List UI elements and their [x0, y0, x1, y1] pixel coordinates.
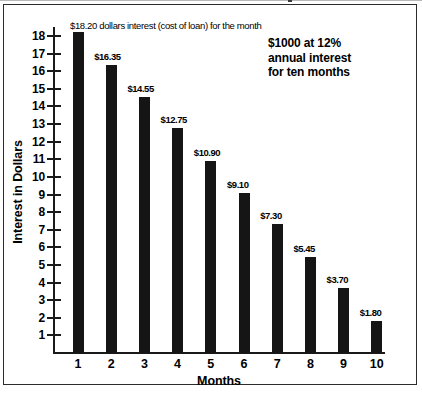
side-note-line: annual interest [268, 51, 351, 66]
x-axis-line [53, 352, 385, 354]
bar-value-label: $12.75 [161, 115, 187, 125]
y-axis-tick-label: 10 [25, 171, 45, 183]
y-axis-tick-label: 13 [25, 118, 45, 130]
x-axis-tick-label: 8 [295, 357, 325, 371]
y-axis-tick-label: 7 [25, 224, 45, 236]
y-axis-tick [47, 282, 61, 284]
bar [239, 193, 250, 353]
bar [371, 321, 382, 353]
y-axis-tick [47, 229, 61, 231]
bar-value-label: $5.45 [293, 244, 315, 254]
y-axis-tick-label: 8 [25, 206, 45, 218]
y-axis-tick-label: 3 [25, 294, 45, 306]
y-axis-tick [47, 88, 61, 90]
y-axis-tick [47, 158, 61, 160]
bar [106, 65, 117, 353]
bar [172, 128, 183, 353]
y-axis-tick [47, 317, 61, 319]
bar-value-label: $10.90 [194, 148, 220, 158]
side-note-block: $1000 at 12%annual interestfor ten month… [268, 36, 351, 80]
y-axis-tick-label: 6 [25, 241, 45, 253]
y-axis-tick [47, 211, 61, 213]
y-axis-line [53, 27, 55, 354]
y-axis-tick-label: 1 [25, 329, 45, 341]
bar [305, 257, 316, 353]
y-axis-tick [47, 334, 61, 336]
y-axis-tick-label: 12 [25, 136, 45, 148]
x-axis-tick-label: 1 [63, 357, 93, 371]
bar [272, 224, 283, 353]
bar [205, 161, 216, 353]
y-axis-tick [47, 35, 61, 37]
x-axis-tick-label: 2 [96, 357, 126, 371]
x-axis-tick-label: 4 [163, 357, 193, 371]
bar-value-label: $14.55 [127, 84, 153, 94]
y-axis-tick [47, 105, 61, 107]
y-axis-tick-label: 11 [25, 153, 45, 165]
x-axis-tick-label: 10 [362, 357, 392, 371]
y-axis-tick [47, 176, 61, 178]
side-note-line: $1000 at 12% [268, 36, 351, 51]
x-axis-tick-label: 7 [262, 357, 292, 371]
y-axis-title: Interest in Dollars [11, 127, 25, 257]
y-axis-tick [47, 123, 61, 125]
bar-value-label: $9.10 [227, 180, 249, 190]
x-axis-tick-label: 3 [129, 357, 159, 371]
bar-value-label: $16.35 [94, 52, 120, 62]
bar-value-label: $1.80 [360, 308, 382, 318]
bar [73, 32, 84, 353]
first-bar-annotation: $18.20 dollars interest (cost of loan) f… [70, 20, 261, 31]
y-axis-tick [47, 246, 61, 248]
y-axis-tick [47, 299, 61, 301]
y-axis-tick [47, 70, 61, 72]
bar-value-label: $7.30 [260, 211, 282, 221]
side-note-line: for ten months [268, 65, 351, 80]
y-axis-tick-label: 4 [25, 277, 45, 289]
y-axis-tick-label: 2 [25, 312, 45, 324]
x-axis-tick-label: 6 [229, 357, 259, 371]
y-axis-tick [47, 141, 61, 143]
bar [139, 97, 150, 353]
y-axis-tick-label: 17 [25, 48, 45, 60]
bar-chart-plot-area: 181716151413121110987654321 Interest in … [0, 0, 422, 397]
x-axis-tick-label: 5 [196, 357, 226, 371]
y-axis-tick [47, 53, 61, 55]
y-axis-tick [47, 194, 61, 196]
bar [338, 288, 349, 353]
y-axis-tick-label: 5 [25, 259, 45, 271]
bar-value-label: $3.70 [327, 275, 349, 285]
y-axis-tick-label: 16 [25, 65, 45, 77]
x-axis-tick-label: 9 [329, 357, 359, 371]
y-axis-tick-label: 14 [25, 100, 45, 112]
y-axis-tick-label: 18 [25, 30, 45, 42]
x-axis-title: Months [53, 374, 385, 388]
y-axis-tick-label: 15 [25, 83, 45, 95]
y-axis-tick [47, 264, 61, 266]
y-axis-tick-label: 9 [25, 189, 45, 201]
